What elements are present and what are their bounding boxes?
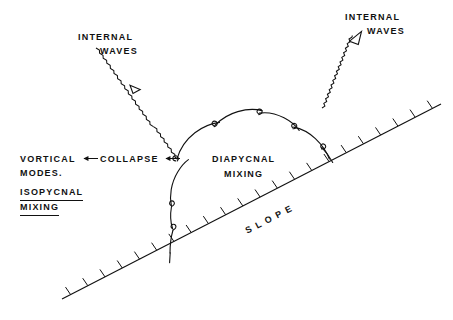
label-diapycnal-mixing-line1: DIAPYCNAL xyxy=(212,154,275,164)
label-modes: MODES. xyxy=(20,166,63,180)
label-internal-waves-left: INTERNAL WAVES xyxy=(78,30,138,58)
label-diapycnal-mixing-line2: MIXING xyxy=(212,167,275,182)
slope-boundary xyxy=(62,101,441,299)
billow-foot-left xyxy=(170,253,171,263)
zigzag-line-left xyxy=(96,48,153,127)
internal-wave-ray-right xyxy=(322,31,362,108)
label-internal-waves-right-line2: WAVES xyxy=(367,24,405,38)
label-vortical: VORTICAL xyxy=(20,152,76,166)
label-internal-waves-left-line2: WAVES xyxy=(100,44,138,58)
label-isopycnal: ISOPYCNAL xyxy=(20,185,83,201)
label-diapycnal-mixing: DIAPYCNAL MIXING xyxy=(212,152,275,182)
zigzag-line-right xyxy=(322,36,352,109)
mixed-patch-billows xyxy=(170,109,333,262)
label-internal-waves-right-line1: INTERNAL xyxy=(345,12,400,22)
slope-line xyxy=(62,104,441,299)
internal-wave-ray-left xyxy=(96,48,178,159)
billow-arc-6 xyxy=(259,113,299,131)
label-mixing: MIXING xyxy=(20,200,59,216)
billow-arc-3 xyxy=(171,160,189,206)
label-internal-waves-left-line1: INTERNAL xyxy=(78,32,133,42)
label-internal-waves-right: INTERNAL WAVES xyxy=(345,10,405,38)
billow-arc-5 xyxy=(215,109,262,125)
wave-arrowhead-left xyxy=(130,85,140,93)
slope-hatch-marks xyxy=(66,101,433,295)
figure-canvas: INTERNAL WAVES INTERNAL WAVES DIAPYCNAL … xyxy=(0,0,453,320)
label-collapse: COLLAPSE xyxy=(100,152,159,166)
